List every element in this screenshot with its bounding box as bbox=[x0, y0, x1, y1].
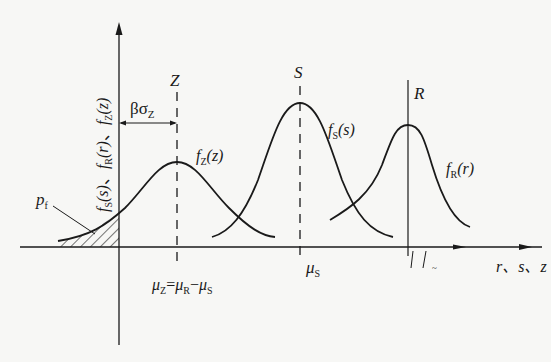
z-label: Z bbox=[170, 71, 180, 90]
break-tilde: ~ bbox=[432, 263, 437, 273]
fz-label: fZ(z) bbox=[196, 147, 223, 167]
fr-label: fR(r) bbox=[446, 160, 474, 180]
break-mark-1 bbox=[411, 251, 413, 268]
curve-fz bbox=[58, 162, 275, 241]
fs-label: fS(s) bbox=[328, 121, 355, 141]
beta-sigma-dimension: βσZ bbox=[119, 99, 177, 126]
curve-fs bbox=[212, 103, 393, 237]
svg-text:βσZ: βσZ bbox=[130, 99, 155, 120]
break-mark-2 bbox=[423, 251, 426, 268]
s-label: S bbox=[294, 63, 303, 82]
r-label: R bbox=[413, 84, 425, 103]
x-axis-arrow-icon bbox=[519, 244, 532, 250]
mu-z-equation: μZ=μR−μS bbox=[151, 276, 213, 296]
mu-s-label: μS bbox=[305, 258, 320, 279]
pf-leader-line bbox=[53, 206, 95, 234]
x-axis-label: r、s、z bbox=[496, 258, 547, 275]
y-axis-label: fS(s)、fR(r)、fZ(z) bbox=[94, 98, 114, 212]
x-axis-arrow-icon-secondary bbox=[453, 245, 466, 250]
y-axis-arrow-icon bbox=[116, 22, 123, 35]
pf-label: pf bbox=[35, 190, 49, 211]
interference-diagram: ~ βσZ Z S R fZ(z) fS(s) fR(r) pf μS μZ=μ… bbox=[0, 0, 551, 362]
